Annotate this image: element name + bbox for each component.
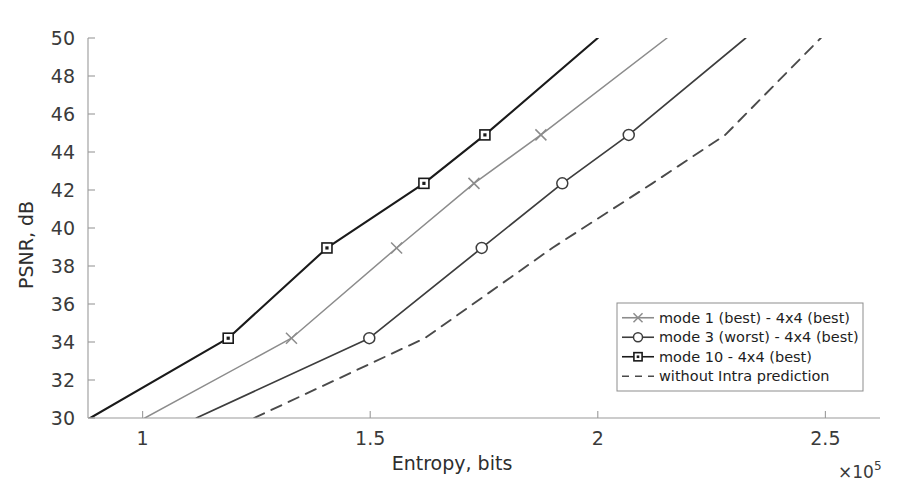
x-tick-label: 1 (137, 427, 149, 449)
y-tick-label: 30 (51, 407, 75, 429)
chart-figure: 303234363840424446485011.522.5 PSNR, dB … (0, 0, 904, 494)
y-tick-label: 48 (51, 65, 75, 87)
legend-item-label: mode 10 - 4x4 (best) (659, 349, 812, 365)
y-tick-label: 50 (51, 27, 75, 49)
data-point-marker-square-core (227, 337, 230, 340)
series-1 (145, 38, 667, 418)
y-tick-label: 46 (51, 103, 75, 125)
chart-legend[interactable]: mode 1 (best) - 4x4 (best)mode 3 (worst)… (617, 303, 863, 391)
data-point-marker-square-core (483, 133, 486, 136)
series-line (145, 38, 667, 418)
x-axis-multiplier: ×10 (838, 462, 874, 482)
data-point-marker-x (286, 333, 297, 344)
data-point-marker-circle (623, 129, 634, 140)
data-point-marker-circle (633, 333, 642, 342)
data-point-marker-square-core (325, 246, 328, 249)
data-point-marker-x (391, 242, 402, 253)
x-axis-multiplier-exponent: 5 (874, 459, 882, 473)
y-tick-label: 36 (51, 293, 75, 315)
data-point-marker-square-core (637, 355, 640, 358)
x-tick-label: 1.5 (355, 427, 385, 449)
y-tick-label: 34 (51, 331, 75, 353)
data-point-marker-x (535, 129, 546, 140)
data-point-marker-circle (557, 178, 568, 189)
series-line (90, 38, 598, 418)
x-tick-label: 2 (592, 427, 604, 449)
data-point-marker-circle (476, 242, 487, 253)
y-tick-label: 40 (51, 217, 75, 239)
y-tick-label: 38 (51, 255, 75, 277)
data-point-marker-x (468, 178, 479, 189)
data-point-marker-square-core (422, 182, 425, 185)
line-chart: 303234363840424446485011.522.5 PSNR, dB … (0, 0, 904, 494)
x-axis-title: Entropy, bits (392, 452, 513, 474)
data-point-marker-circle (364, 333, 375, 344)
legend-item-label: mode 1 (best) - 4x4 (best) (659, 310, 850, 326)
y-tick-label: 32 (51, 369, 75, 391)
legend-item-label: without Intra prediction (659, 368, 829, 384)
series-0 (90, 38, 598, 418)
y-axis-title: PSNR, dB (15, 201, 37, 289)
y-tick-label: 44 (51, 141, 75, 163)
legend-item-label: mode 3 (worst) - 4x4 (best) (659, 329, 859, 345)
x-tick-label: 2.5 (810, 427, 840, 449)
y-tick-label: 42 (51, 179, 75, 201)
